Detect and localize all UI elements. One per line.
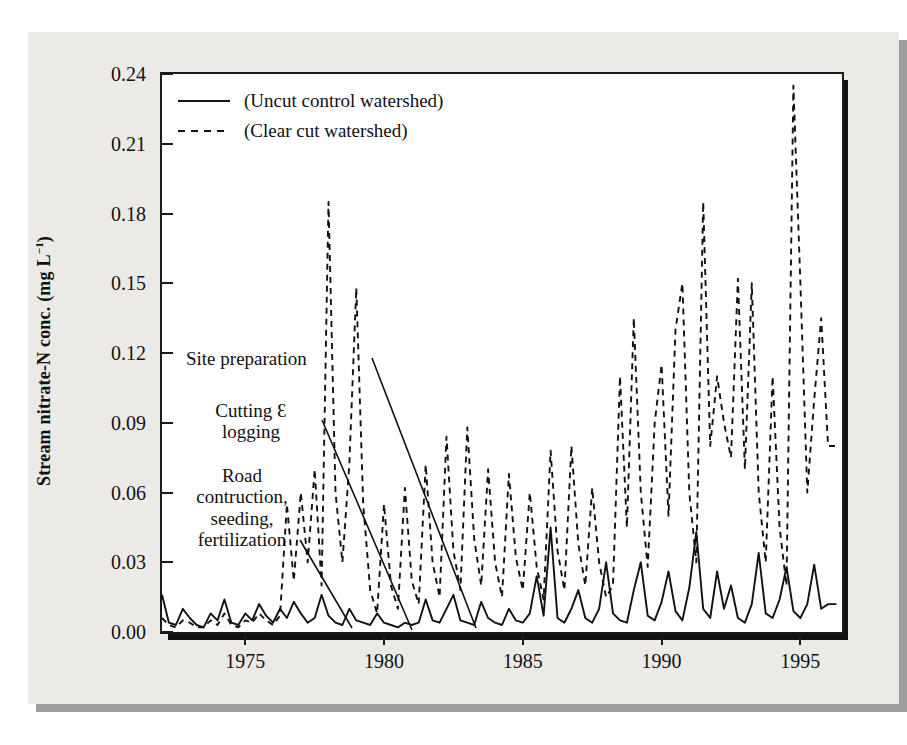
y-axis-tick-mark — [162, 73, 173, 75]
y-axis-tick-mark — [162, 561, 173, 563]
y-axis-tick-mark — [162, 143, 173, 145]
figure-page: Stream nitrate-N conc. (mg L−1) 0.240.21… — [0, 0, 907, 745]
x-axis-tick-mark — [244, 634, 246, 645]
x-axis-tick-mark — [799, 634, 801, 645]
y-axis-tick-label: 0.21 — [84, 132, 146, 155]
y-axis-tick-mark — [162, 631, 173, 633]
y-axis-tick-label: 0.09 — [84, 411, 146, 434]
annotation-cutting-logging-line2: logging — [182, 421, 320, 442]
y-axis-title-main: Stream nitrate-N conc. (mg L — [34, 254, 54, 486]
x-axis-tick-mark — [383, 634, 385, 645]
y-axis-tick-label: 0.15 — [84, 272, 146, 295]
y-axis-tick-label: 0.03 — [84, 551, 146, 574]
x-axis-tick-label: 1995 — [780, 650, 820, 673]
legend-label-uncut-control: (Uncut control watershed) — [244, 90, 443, 112]
annotation-cutting-logging: Cutting Ɛ logging — [182, 400, 320, 443]
y-axis-title-exponent: −1 — [33, 242, 45, 254]
annotation-road-line3: seeding, — [166, 508, 318, 529]
y-axis-title-close: ) — [34, 236, 54, 242]
legend-item-uncut-control: (Uncut control watershed) — [178, 86, 443, 116]
x-axis-tick-mark — [522, 634, 524, 645]
chart-legend: (Uncut control watershed) (Clear cut wat… — [178, 86, 443, 146]
y-axis-tick-label: 0.12 — [84, 342, 146, 365]
x-axis-tick-label: 1980 — [364, 650, 404, 673]
y-axis-tick-mark — [162, 282, 173, 284]
legend-item-clear-cut: (Clear cut watershed) — [178, 116, 443, 146]
annotation-cutting-logging-line1: Cutting Ɛ — [182, 400, 320, 421]
y-axis-tick-mark — [162, 213, 173, 215]
y-axis-tick-label: 0.24 — [84, 63, 146, 86]
annotation-road-line1: Road — [166, 465, 318, 486]
legend-label-clear-cut: (Clear cut watershed) — [244, 120, 408, 142]
annotation-site-preparation: Site preparation — [186, 348, 376, 369]
y-axis-tick-label: 0.18 — [84, 202, 146, 225]
legend-solid-line-icon — [178, 100, 230, 102]
x-axis-tick-label: 1985 — [503, 650, 543, 673]
annotation-road-line4: fertilization — [166, 529, 318, 550]
annotation-road-construction: Road contruction, seeding, fertilization — [166, 465, 318, 550]
x-axis-tick-mark — [661, 634, 663, 645]
x-axis-tick-label: 1990 — [642, 650, 682, 673]
y-axis-tick-label: 0.06 — [84, 481, 146, 504]
y-axis-tick-label: 0.00 — [84, 621, 146, 644]
y-axis-tick-mark — [162, 352, 173, 354]
x-axis-tick-label: 1975 — [225, 650, 265, 673]
annotation-road-line2: contruction, — [166, 486, 318, 507]
y-axis-tick-mark — [162, 422, 173, 424]
y-axis-title: Stream nitrate-N conc. (mg L−1) — [33, 111, 55, 611]
